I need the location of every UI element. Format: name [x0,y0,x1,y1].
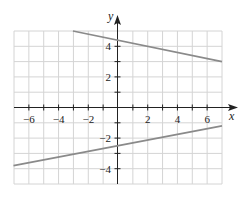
x-tick-label: 6 [204,113,210,125]
x-tick-label: −2 [82,113,94,125]
x-axis-label: x [228,109,235,123]
x-tick-label: 2 [145,113,151,125]
x-tick-label: 4 [175,113,181,125]
x-tick-label: −4 [53,113,65,125]
y-tick-label: 4 [106,40,112,52]
y-tick-label: −2 [99,132,111,144]
coordinate-plane: −6 −4 −2 2 4 6 4 2 −2 −4 y x [0,0,244,197]
y-tick-label: −4 [99,163,111,175]
y-axis-label: y [107,9,114,23]
y-tick-label: 2 [106,71,112,83]
x-tick-label: −6 [23,113,35,125]
x-axis [14,104,238,111]
